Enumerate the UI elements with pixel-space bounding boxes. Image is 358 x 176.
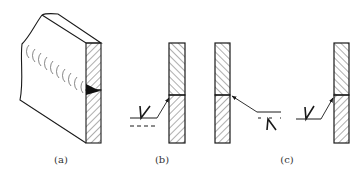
plate-c1-top: [215, 43, 230, 95]
arrow-line: [321, 98, 333, 119]
caption-a: (a): [54, 154, 68, 165]
plate-b-bottom: [169, 95, 185, 143]
arrow-line: [232, 96, 257, 112]
panel-b: [130, 43, 185, 143]
inverted-v-groove-symbol: [267, 119, 276, 130]
weld-bead-ripples: [26, 45, 83, 93]
caption-b: (b): [155, 154, 169, 165]
arrow-line: [157, 98, 169, 118]
panel-a: [20, 14, 101, 143]
plate-c2-top: [334, 43, 349, 95]
panel-c-left: [215, 43, 281, 143]
weld-symbol-diagram: [0, 0, 358, 176]
plate-section-bottom: [86, 90, 101, 143]
plate-section-top: [86, 43, 101, 90]
v-groove-symbol: [140, 106, 150, 118]
caption-c: (c): [280, 154, 293, 165]
plate-b-top: [169, 43, 185, 95]
plate-c2-bottom: [334, 95, 349, 143]
v-groove-symbol: [305, 106, 314, 119]
plate-c1-bottom: [215, 95, 230, 143]
panel-c-right: [296, 43, 349, 143]
